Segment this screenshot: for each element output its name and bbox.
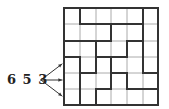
puzzle-diagram xyxy=(0,0,169,109)
number-label: 6 5 3 xyxy=(7,72,48,87)
arrowhead-icon xyxy=(58,78,62,81)
